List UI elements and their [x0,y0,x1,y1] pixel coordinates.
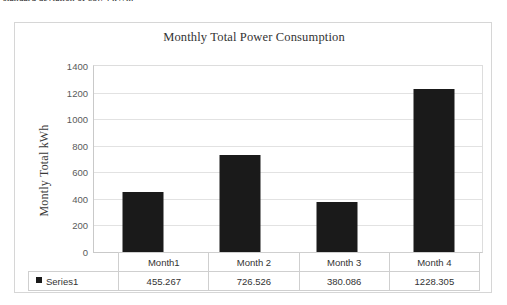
chart-frame[interactable]: Monthly Total Power Consumption Montly T… [14,22,492,293]
legend-swatch-icon [36,277,42,283]
bar-slot [191,66,288,252]
table-cell-value: 380.086 [299,272,389,291]
table-cell-category: Month 4 [389,253,479,272]
table-row-values: Series1 455.267726.526380.0861228.305 [29,272,480,291]
bar-slot [385,66,482,252]
clipped-document-text: standard deviation of 85.74 kWh. [0,0,507,12]
table-cell-value: 1228.305 [389,272,479,291]
legend-label: Series1 [46,276,78,287]
y-axis-tick-label: 200 [72,220,88,231]
y-axis-tick-label: 1000 [67,114,88,125]
table-cell-value: 455.267 [119,272,209,291]
table-cell-category: Month 2 [209,253,299,272]
legend-entry-series1[interactable]: Series1 [29,272,119,291]
bar[interactable] [219,155,260,252]
y-axis-tick-label: 1400 [67,61,88,72]
table-cell-value: 726.526 [209,272,299,291]
chart-data-table: Month1Month 2Month 3Month 4 Series1 455.… [28,252,480,291]
clipped-document-text-line: standard deviation of 85.74 kWh. [3,0,133,3]
y-axis-tick-label: 400 [72,193,88,204]
table-cell-category: Month 3 [299,253,389,272]
table-corner-cell [29,253,119,272]
y-axis-tick-label: 600 [72,167,88,178]
bar[interactable] [122,192,163,252]
bar[interactable] [413,89,454,252]
chart-title: Monthly Total Power Consumption [15,30,493,45]
y-axis-tick-label: 800 [72,140,88,151]
bar[interactable] [316,202,357,252]
table-row-categories: Month1Month 2Month 3Month 4 [29,253,480,272]
y-axis-title: Montly Total kWh [37,96,52,246]
table-cell-category: Month1 [119,253,209,272]
y-axis-tick-label: 1200 [67,87,88,98]
bar-slot [94,66,191,252]
plot-area: 1400120010008006004002000 [93,65,483,253]
bar-slot [288,66,385,252]
bar-series [94,66,482,252]
